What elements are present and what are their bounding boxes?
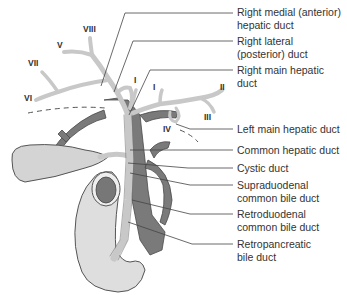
label-line: duct <box>237 77 324 90</box>
label-cystic-duct: Cystic duct <box>237 162 288 175</box>
leader-right-lateral <box>114 41 233 92</box>
label-line: Common hepatic duct <box>237 144 339 157</box>
label-right-lateral-duct: Right lateral (posterior) duct <box>237 35 308 60</box>
label-line: common bile duct <box>237 192 319 205</box>
segment-ii-label: II <box>220 82 225 92</box>
label-line: (posterior) duct <box>237 48 308 61</box>
label-line: Left main hepatic duct <box>237 123 340 136</box>
segment-vi-label: VI <box>24 93 32 103</box>
label-line: Retropancreatic <box>237 238 311 251</box>
segment-i-right-label: I <box>134 75 136 85</box>
label-line: Retroduodenal <box>237 208 319 221</box>
segment-iii-label: III <box>204 112 211 122</box>
leader-right-medial <box>101 13 233 86</box>
segment-vii-label: VII <box>28 58 38 68</box>
label-right-medial-hepatic-duct: Right medial (anterior) hepatic duct <box>237 6 341 31</box>
label-left-main-hepatic-duct: Left main hepatic duct <box>237 123 340 136</box>
label-right-main-hepatic-duct: Right main hepatic duct <box>237 64 324 89</box>
label-common-hepatic-duct: Common hepatic duct <box>237 144 339 157</box>
label-line: Right main hepatic <box>237 64 324 77</box>
segment-iv-label: IV <box>163 124 171 134</box>
label-line: Cystic duct <box>237 162 288 175</box>
liver-edge-dashed-line-right <box>180 130 198 142</box>
segment-v-label: V <box>57 40 63 50</box>
leader-left-main <box>176 124 233 129</box>
label-line: bile duct <box>237 251 311 264</box>
label-line: Right lateral <box>237 35 308 48</box>
segment-viii-label: VIII <box>83 24 96 34</box>
label-retroduodenal-common-bile-duct: Retroduodenal common bile duct <box>237 208 319 233</box>
label-line: hepatic duct <box>237 19 341 32</box>
gallbladder <box>12 145 108 182</box>
segment-i-left-label: I <box>153 82 155 92</box>
duodenal-lumen <box>96 177 116 203</box>
label-line: common bile duct <box>237 221 319 234</box>
label-supraduodenal-common-bile-duct: Supraduodenal common bile duct <box>237 179 319 204</box>
label-line: Right medial (anterior) <box>237 6 341 19</box>
label-line: Supraduodenal <box>237 179 319 192</box>
liver-edge-dashed-line <box>28 107 105 113</box>
label-retropancreatic-bile-duct: Retropancreatic bile duct <box>237 238 311 263</box>
